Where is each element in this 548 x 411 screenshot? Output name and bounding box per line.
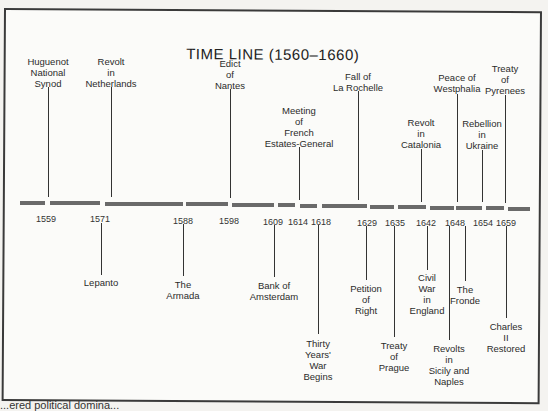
timeline-bar-segment xyxy=(398,205,426,209)
event-label-above: Meeting of French Estates-General xyxy=(265,105,334,149)
timeline-bar-segment xyxy=(20,201,45,205)
timeline-bar-segment xyxy=(186,202,228,206)
timeline-bar-segment xyxy=(486,206,504,210)
event-label-above: Revolt in Catalonia xyxy=(401,117,441,150)
event-connector-line xyxy=(457,94,458,202)
event-label-below: The Fronde xyxy=(450,284,480,306)
event-connector-line xyxy=(48,87,49,197)
timeline-bar-segment xyxy=(300,204,317,208)
event-connector-line xyxy=(111,87,112,197)
event-connector-line xyxy=(358,91,359,200)
year-label: 1609 xyxy=(263,217,283,227)
event-label-above: Revolt in Netherlands xyxy=(85,56,136,89)
event-connector-line xyxy=(482,150,483,202)
year-label: 1559 xyxy=(36,214,56,224)
timeline-bar-segment xyxy=(370,205,394,209)
event-connector-line xyxy=(274,225,275,277)
timeline-bar-segment xyxy=(430,206,454,210)
event-label-below: Charles II Restored xyxy=(487,321,526,354)
event-connector-line xyxy=(506,226,507,318)
event-label-below: Revolts in Sicily and Naples xyxy=(429,343,470,387)
event-connector-line xyxy=(505,95,506,203)
event-label-below: Treaty of Prague xyxy=(379,340,410,373)
event-label-above: Peace of Westphalia xyxy=(434,72,481,94)
year-label: 1614 xyxy=(288,217,308,227)
event-connector-line xyxy=(421,149,422,202)
event-label-below: Civil War in England xyxy=(410,272,445,316)
event-connector-line xyxy=(183,224,184,276)
event-label-above: Edict of Nantes xyxy=(215,58,245,91)
cut-off-page-text: ...ered political domina... xyxy=(0,399,119,411)
event-label-above: Treaty of Pyrenees xyxy=(485,63,525,96)
event-label-above: Fall of La Rochelle xyxy=(333,71,383,93)
timeline-bar-segment xyxy=(232,203,274,207)
event-connector-line xyxy=(449,226,450,340)
event-label-below: Petition of Right xyxy=(350,283,382,316)
year-label: 1571 xyxy=(90,214,110,224)
year-label: 1654 xyxy=(473,218,493,228)
timeline-bar-segment xyxy=(50,201,100,205)
event-connector-line xyxy=(465,226,466,281)
timeline-bar-segment xyxy=(322,204,367,208)
timeline-bar-segment xyxy=(278,203,295,207)
event-connector-line xyxy=(318,225,319,334)
year-label: 1635 xyxy=(385,218,405,228)
event-label-above: Rebellion in Ukraine xyxy=(462,118,502,151)
event-connector-line xyxy=(394,226,395,337)
event-connector-line xyxy=(230,89,231,198)
timeline-bar-segment xyxy=(508,207,530,211)
event-label-above: Huguenot National Synod xyxy=(27,56,68,89)
event-label-below: Thirty Years' War Begins xyxy=(303,338,332,382)
event-connector-line xyxy=(101,223,102,275)
event-label-below: The Armada xyxy=(166,279,199,301)
year-label: 1629 xyxy=(357,218,377,228)
year-label: 1648 xyxy=(445,218,465,228)
timeline-bar-segment xyxy=(105,202,183,206)
event-label-below: Lepanto xyxy=(84,277,118,288)
year-label: 1642 xyxy=(416,218,436,228)
year-label: 1598 xyxy=(219,216,239,226)
year-label: 1618 xyxy=(311,217,331,227)
event-label-below: Bank of Amsterdam xyxy=(250,280,299,302)
event-connector-line xyxy=(427,226,428,270)
timeline-bar-segment xyxy=(456,206,482,210)
event-connector-line xyxy=(366,226,367,280)
event-connector-line xyxy=(299,147,300,200)
